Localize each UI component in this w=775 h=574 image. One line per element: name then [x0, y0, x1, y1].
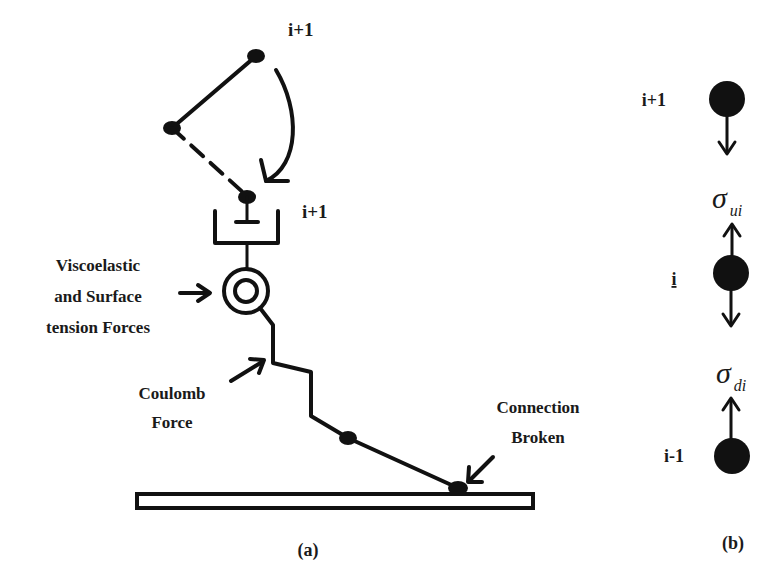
label-coulomb-2: Force: [151, 413, 193, 432]
panel-a: i+1 i+1 Viscoelastic and Surface tension…: [46, 19, 580, 561]
label-middle-bead: i+1: [302, 201, 328, 222]
figure-canvas: i+1 i+1 Viscoelastic and Surface tension…: [0, 0, 775, 574]
panel-b: i+1 σui i σdi i-1 (b): [642, 81, 750, 554]
label-bead-i: i: [671, 269, 676, 289]
label-bead-i-minus-1: i-1: [664, 446, 684, 466]
polymer-chain: [260, 308, 458, 488]
label-viscoelastic-1: Viscoelastic: [56, 256, 141, 275]
label-connection-1: Connection: [496, 398, 580, 417]
connection-pointer: [470, 457, 493, 480]
coulomb-pointer: [231, 362, 262, 381]
label-coulomb-1: Coulomb: [138, 384, 205, 403]
dashed-link: [172, 128, 247, 196]
bead-i: [713, 255, 749, 291]
rotation-arrow: [266, 70, 293, 181]
substrate: [137, 494, 533, 508]
outer-ring: [224, 269, 268, 313]
sigma-ui: σui: [712, 181, 742, 219]
bead-i-plus-1: [709, 81, 745, 117]
label-connection-2: Broken: [511, 428, 565, 447]
caption-b: (b): [722, 533, 744, 554]
sigma-di: σdi: [716, 356, 746, 394]
label-top-bead: i+1: [288, 19, 314, 40]
label-viscoelastic-3: tension Forces: [46, 318, 150, 337]
bead-top: [247, 49, 265, 63]
caption-a: (a): [298, 540, 319, 561]
label-viscoelastic-2: and Surface: [54, 287, 142, 306]
label-bead-i-plus-1: i+1: [642, 90, 666, 110]
bead-i-minus-1: [714, 438, 750, 474]
inner-ring: [235, 280, 257, 302]
solid-link: [172, 56, 256, 128]
bead-lower: [339, 431, 357, 445]
